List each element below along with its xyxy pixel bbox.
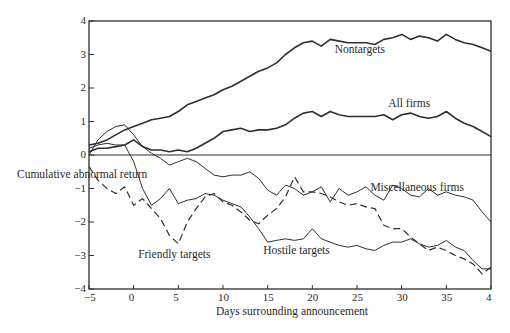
- x-axis-label: Days surrounding announcement: [216, 305, 368, 317]
- series-layer: [89, 34, 491, 274]
- x-tick-label: 5: [173, 291, 179, 303]
- series-label-all-firms: All firms: [388, 97, 430, 109]
- series-label-hostile-targets: Hostile targets: [263, 244, 330, 256]
- y-tick-label: 3: [81, 48, 87, 60]
- series-label-friendly-targets: Friendly targets: [138, 248, 210, 260]
- x-tick-label: 15: [263, 291, 274, 303]
- y-tick-label: −2: [74, 215, 86, 227]
- y-tick-label: 0: [81, 148, 87, 160]
- x-tick-label: 0: [129, 291, 135, 303]
- x-tick-label: 25: [352, 291, 363, 303]
- y-tick-label: −3: [74, 249, 86, 261]
- series-nontargets: [89, 34, 491, 145]
- x-tick-label: 30: [397, 291, 408, 303]
- x-tick-label: −5: [84, 291, 96, 303]
- series-label-nontargets: Nontargets: [335, 43, 385, 55]
- series-all-firms: [89, 112, 491, 152]
- x-tick-label: 35: [441, 291, 452, 303]
- y-axis-label: Cumulative abnormal return: [17, 168, 147, 181]
- series-label-miscellaneous-firms: Miscellaneous firms: [370, 181, 464, 193]
- x-tick-label: 20: [307, 291, 318, 303]
- y-tick-label: 2: [81, 81, 87, 93]
- y-tick-label: 4: [81, 14, 87, 26]
- y-tick-label: −1: [74, 182, 86, 194]
- series-miscellaneous-firms: [89, 125, 491, 222]
- y-tick-label: 1: [81, 115, 87, 127]
- x-tick-label: 10: [218, 291, 229, 303]
- x-tick-label: 4: [486, 291, 492, 303]
